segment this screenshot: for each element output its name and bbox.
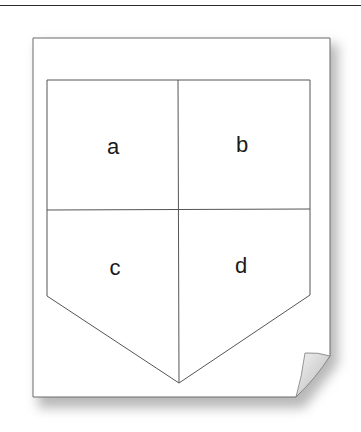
quarter-label-d: d — [235, 253, 247, 278]
quarter-label-c: c — [110, 255, 121, 280]
diagram-canvas: a b c d — [0, 0, 361, 432]
quarter-label-a: a — [107, 134, 120, 159]
paper-sheet — [33, 38, 330, 397]
quarter-label-b: b — [236, 132, 248, 157]
